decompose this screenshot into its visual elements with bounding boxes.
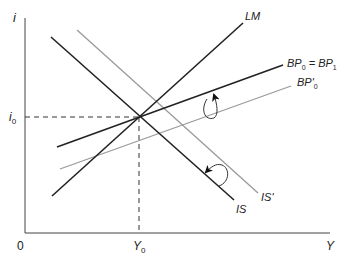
is-label: IS bbox=[236, 203, 247, 215]
is-prime-curve bbox=[77, 30, 258, 193]
is-prime-label: IS' bbox=[261, 191, 274, 203]
lm-curve bbox=[52, 23, 243, 196]
is-shift-arrow-icon bbox=[206, 164, 228, 186]
x-axis-label: Y bbox=[326, 239, 335, 253]
origin-label: 0 bbox=[17, 239, 24, 253]
is-lm-bp-diagram: i Y 0 i0 Y0 LM BP0 = BP1 BP'0 IS' IS bbox=[0, 0, 340, 258]
is-curve bbox=[51, 37, 234, 200]
bp0-curve bbox=[57, 65, 283, 147]
i0-label: i0 bbox=[9, 110, 17, 126]
y0-label: Y0 bbox=[133, 239, 146, 255]
bp0-label: BP0 = BP1 bbox=[287, 57, 337, 71]
lm-label: LM bbox=[245, 10, 261, 22]
y-axis-label: i bbox=[13, 10, 17, 25]
bp0-prime-label: BP'0 bbox=[297, 76, 318, 90]
